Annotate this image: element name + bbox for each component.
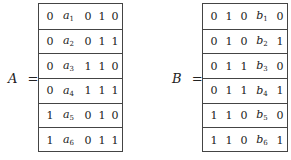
bit-cell: 0 (80, 109, 96, 122)
symbol-cell: b1 (251, 9, 273, 23)
bit-cell: 1 (273, 134, 287, 147)
subscript: 4 (70, 90, 74, 98)
bit-cell: 0 (80, 35, 96, 48)
matrix-row: 110b61 (203, 127, 287, 152)
symbol-cell: a3 (57, 59, 80, 73)
bit-cell: 0 (108, 60, 122, 73)
subscript: 6 (263, 139, 267, 147)
subscript: 2 (263, 40, 267, 48)
equals-sign: = (192, 71, 203, 86)
bit-cell: 0 (43, 35, 57, 48)
subscript: 1 (263, 15, 267, 23)
symbol-cell: b3 (251, 59, 273, 73)
matrix-row: 1a6011 (39, 127, 122, 152)
bit-cell: 0 (237, 109, 251, 122)
bit-cell: 1 (96, 134, 108, 147)
bit-cell: 0 (43, 60, 57, 73)
bit-cell: 0 (207, 35, 221, 48)
symbol-cell: a6 (57, 133, 80, 147)
symbol-cell: a5 (57, 108, 80, 122)
matrix-row: 010b10 (203, 4, 287, 29)
bit-cell: 1 (43, 109, 57, 122)
subscript: 5 (263, 114, 267, 122)
bit-cell: 1 (96, 84, 108, 97)
bit-cell: 1 (108, 35, 122, 48)
symbol-cell: a2 (57, 34, 80, 48)
symbol-cell: b5 (251, 108, 273, 122)
bit-cell: 0 (43, 84, 57, 97)
bit-cell: 0 (108, 109, 122, 122)
matrix-row: 0a2011 (39, 29, 122, 54)
matrix-b: 010b10010b21011b30011b41110b50110b61 (202, 3, 288, 152)
subscript: 3 (70, 65, 74, 73)
bit-cell: 0 (80, 10, 96, 23)
subscript: 5 (70, 114, 74, 122)
subscript: 3 (263, 65, 267, 73)
bit-cell: 1 (221, 10, 237, 23)
symbol-cell: b6 (251, 133, 273, 147)
bit-cell: 1 (96, 10, 108, 23)
bit-cell: 1 (221, 109, 237, 122)
bit-cell: 0 (80, 134, 96, 147)
subscript: 6 (70, 139, 74, 147)
matrix-row: 110b50 (203, 103, 287, 128)
matrix-a: 0a10100a20110a31100a41111a50101a6011 (38, 3, 123, 152)
bit-cell: 0 (273, 60, 287, 73)
matrix-row: 0a3110 (39, 53, 122, 78)
bit-cell: 0 (273, 109, 287, 122)
subscript: 2 (70, 40, 74, 48)
bit-cell: 1 (108, 134, 122, 147)
symbol-cell: b4 (251, 84, 273, 98)
bit-cell: 0 (43, 10, 57, 23)
bit-cell: 0 (207, 60, 221, 73)
matrix-row: 010b21 (203, 29, 287, 54)
symbol-cell: a4 (57, 84, 80, 98)
matrix-a-name: A (8, 71, 17, 86)
bit-cell: 1 (207, 109, 221, 122)
bit-cell: 1 (237, 60, 251, 73)
bit-cell: 1 (96, 35, 108, 48)
bit-cell: 1 (80, 60, 96, 73)
bit-cell: 1 (273, 84, 287, 97)
bit-cell: 0 (108, 10, 122, 23)
bit-cell: 0 (237, 35, 251, 48)
matrix-row: 1a5010 (39, 103, 122, 128)
bit-cell: 1 (273, 35, 287, 48)
subscript: 1 (70, 15, 74, 23)
matrix-row: 011b30 (203, 53, 287, 78)
bit-cell: 1 (80, 84, 96, 97)
bit-cell: 1 (221, 84, 237, 97)
bit-cell: 0 (207, 84, 221, 97)
bit-cell: 0 (237, 10, 251, 23)
symbol-cell: b2 (251, 34, 273, 48)
bit-cell: 0 (273, 10, 287, 23)
matrix-b-name: B (172, 71, 182, 86)
bit-cell: 1 (108, 84, 122, 97)
matrix-row: 0a4111 (39, 78, 122, 103)
matrix-b-label: B = (172, 71, 203, 86)
bit-cell: 1 (237, 84, 251, 97)
bit-cell: 1 (221, 134, 237, 147)
bit-cell: 1 (43, 134, 57, 147)
bit-cell: 1 (96, 109, 108, 122)
subscript: 4 (263, 90, 267, 98)
bit-cell: 1 (96, 60, 108, 73)
matrix-row: 0a1010 (39, 4, 122, 29)
bit-cell: 0 (237, 134, 251, 147)
matrix-row: 011b41 (203, 78, 287, 103)
bit-cell: 1 (221, 35, 237, 48)
symbol-cell: a1 (57, 9, 80, 23)
bit-cell: 1 (207, 134, 221, 147)
bit-cell: 0 (207, 10, 221, 23)
equals-sign: = (28, 71, 39, 86)
matrix-a-label: A = (8, 71, 38, 86)
bit-cell: 1 (221, 60, 237, 73)
